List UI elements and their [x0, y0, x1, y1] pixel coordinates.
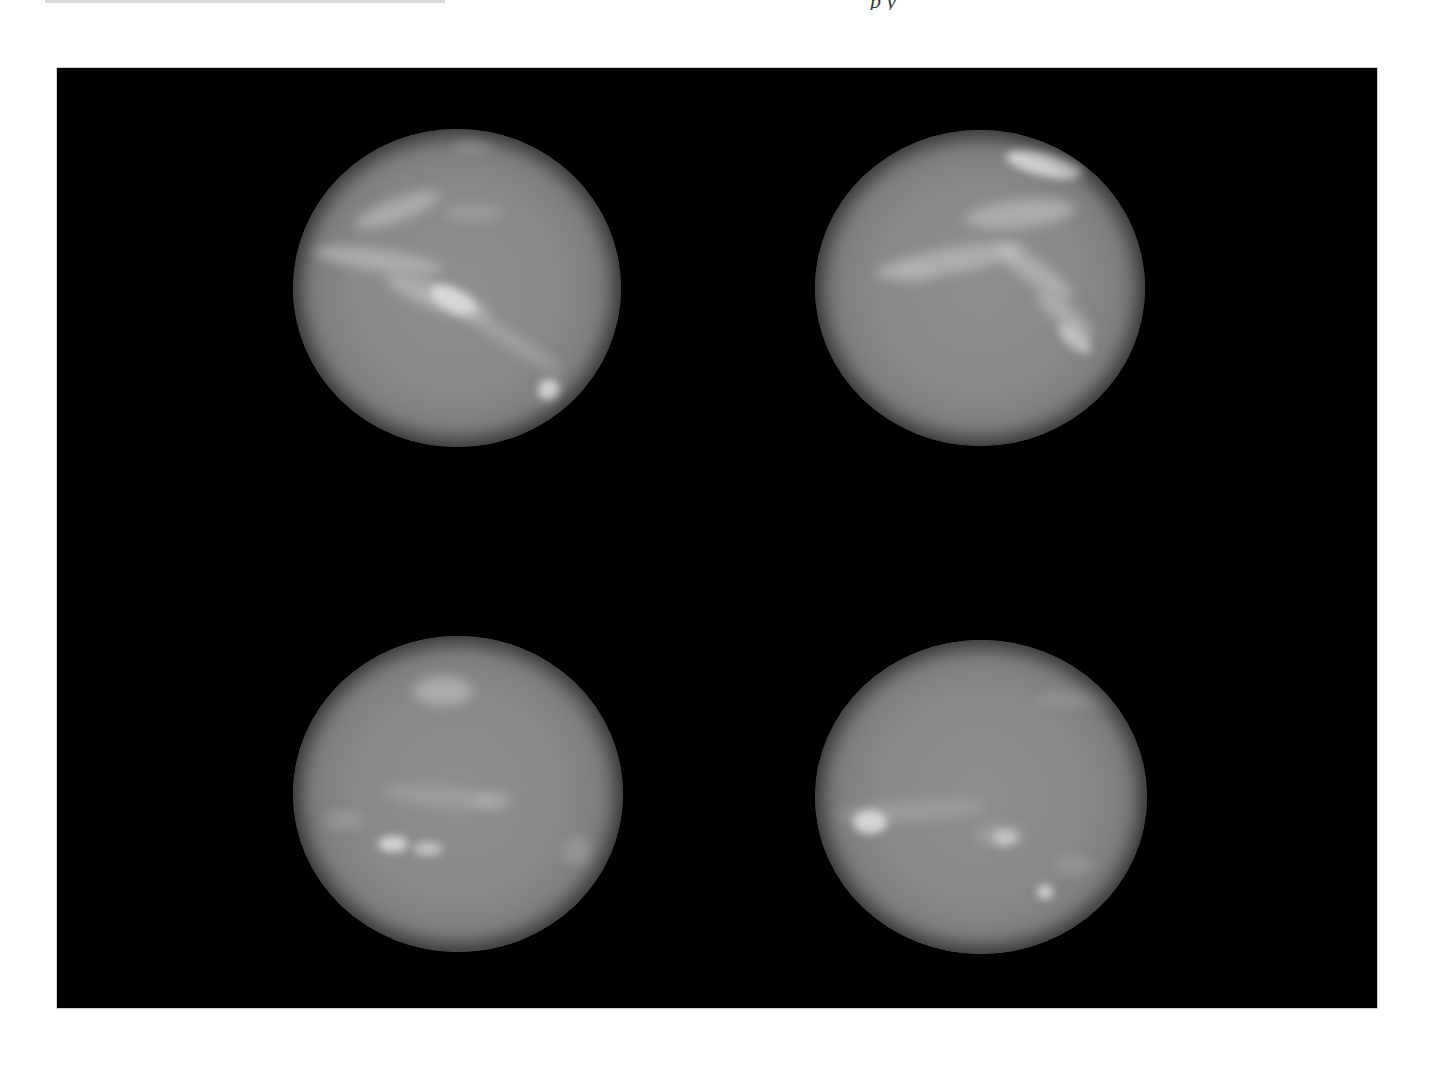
- planet-top-right: [815, 130, 1145, 446]
- page-header-cropped: p y: [0, 0, 1434, 10]
- figure-panel: [57, 68, 1377, 1008]
- planet-bottom-left: [293, 636, 623, 952]
- running-head-text: p y: [870, 0, 896, 10]
- page: p y: [0, 0, 1434, 1076]
- header-rule: [45, 0, 445, 3]
- planet-bottom-right: [815, 640, 1147, 954]
- planet-top-left: [293, 129, 621, 447]
